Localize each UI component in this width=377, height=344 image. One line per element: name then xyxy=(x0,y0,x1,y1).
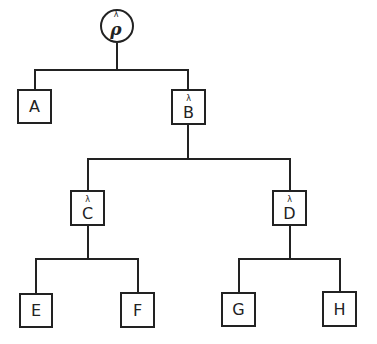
node-a: A xyxy=(18,90,51,123)
node-b-superscript: λ xyxy=(186,94,191,103)
tree-diagram: λ ρ A λ B λ C λ D E F G H xyxy=(0,0,377,344)
node-c-label: C xyxy=(82,204,93,223)
node-c: λ C xyxy=(71,191,104,225)
node-g-label: G xyxy=(232,300,244,319)
edge-root-children xyxy=(35,43,188,90)
edge-d-children xyxy=(239,225,340,293)
edge-c-children xyxy=(36,225,138,294)
root-superscript: λ xyxy=(114,10,119,19)
root-label: ρ xyxy=(109,19,122,39)
node-f: F xyxy=(121,293,154,327)
edges xyxy=(35,43,340,294)
node-d: λ D xyxy=(273,191,306,225)
node-d-superscript: λ xyxy=(287,195,292,204)
node-b-label: B xyxy=(183,103,194,122)
node-a-label: A xyxy=(29,97,40,116)
node-c-superscript: λ xyxy=(85,195,90,204)
node-b: λ B xyxy=(172,90,205,124)
node-h: H xyxy=(323,292,356,326)
edge-b-children xyxy=(88,124,290,191)
node-root-rho: λ ρ xyxy=(101,10,133,42)
node-g: G xyxy=(222,293,255,326)
node-h-label: H xyxy=(333,300,345,319)
node-f-label: F xyxy=(133,301,142,320)
node-d-label: D xyxy=(283,204,295,223)
node-e: E xyxy=(20,294,52,327)
node-e-label: E xyxy=(31,301,41,320)
